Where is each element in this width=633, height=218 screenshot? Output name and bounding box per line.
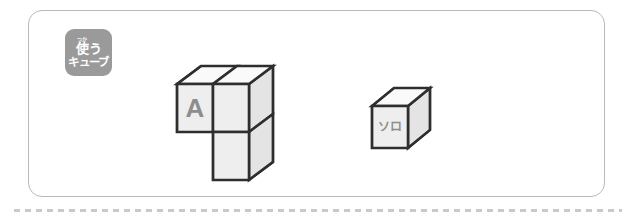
shape-a-front-face-bottom — [213, 132, 249, 180]
used-cubes-badge: つか 使 う キューブ — [65, 29, 112, 76]
figure-shape-solo: ソロ — [356, 76, 446, 166]
cube-panel: つか 使 う キューブ — [28, 10, 605, 197]
dotted-separator-rule — [14, 209, 622, 212]
screenshot-stage: つか 使 う キューブ — [0, 0, 633, 218]
shape-solo-drawing: ソロ — [356, 76, 446, 166]
shape-solo-label: ソロ — [378, 120, 402, 134]
shape-a-front-face-right — [213, 84, 249, 132]
badge-ruby-group: つか 使 — [76, 37, 89, 56]
badge-kanji-tail: う — [89, 42, 102, 55]
figure-shape-a: A — [161, 56, 291, 186]
badge-line-2: キューブ — [68, 57, 108, 69]
badge-line-1: つか 使 う — [65, 37, 112, 56]
shape-a-label: A — [186, 93, 205, 123]
shape-a-drawing: A — [161, 56, 291, 186]
badge-kanji: 使 — [76, 42, 89, 55]
